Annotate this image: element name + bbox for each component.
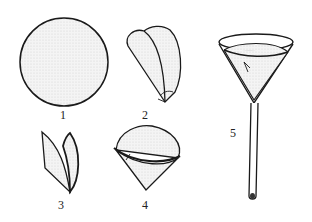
step-5-funnel-with-paper [219,34,293,199]
step-5-label: 5 [230,127,236,139]
diagram-drawing [0,0,312,222]
step-2-label: 2 [142,109,148,121]
step-4-cone [114,126,180,190]
step-4-label: 4 [142,199,148,211]
step-1-circle-paper [20,18,108,106]
step-1-label: 1 [60,109,66,121]
step-3-opened-quarter [42,132,78,192]
step-3-label: 3 [58,199,64,211]
step-2-folded-paper [127,26,180,102]
filter-paper-folding-diagram: 1 2 3 4 5 [0,0,312,222]
